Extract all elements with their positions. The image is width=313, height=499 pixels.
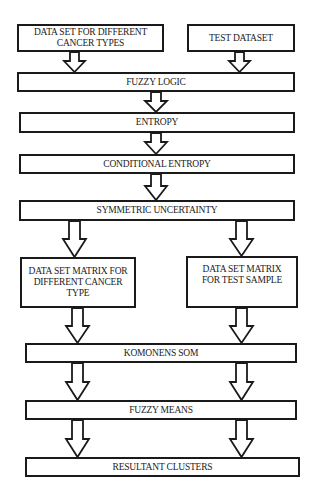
node-matrix-test-line-1: DATA SET MATRIX — [202, 264, 282, 275]
node-test-dataset-label: TEST DATASET — [209, 33, 273, 44]
node-cancer-dataset-line-2: CANCER TYPES — [34, 38, 147, 49]
arrow-test-to-fuzzy-logic — [229, 52, 250, 72]
node-resultant-clusters-label: RESULTANT CLUSTERS — [113, 462, 213, 473]
node-fuzzy-logic-label: FUZZY LOGIC — [126, 77, 185, 88]
arrow-fuzzy-means-to-resultant-right — [230, 420, 253, 457]
node-fuzzy-means: FUZZY MEANS — [25, 400, 297, 420]
arrow-matrix-cancer-to-som — [66, 308, 89, 343]
node-entropy: ENTROPY — [19, 112, 295, 133]
node-entropy-label: ENTROPY — [136, 117, 178, 128]
node-symmetric-uncertainty: SYMMETRIC UNCERTAINTY — [19, 200, 295, 221]
node-conditional-entropy: CONDITIONAL ENTROPY — [19, 154, 295, 174]
arrow-fuzzy-logic-to-entropy — [145, 92, 167, 112]
node-matrix-cancer: DATA SET MATRIX FOR DIFFERENT CANCER TYP… — [20, 257, 136, 308]
arrow-conditional-to-symmetric — [145, 174, 167, 200]
node-test-dataset: TEST DATASET — [187, 24, 295, 52]
node-matrix-cancer-line-3: TYPE — [29, 288, 128, 299]
arrow-som-to-fuzzy-means-left — [66, 363, 89, 400]
node-matrix-cancer-line-1: DATA SET MATRIX FOR — [29, 266, 128, 277]
node-cancer-dataset-line-1: DATA SET FOR DIFFERENT — [34, 27, 147, 38]
arrow-entropy-to-conditional-entropy — [145, 133, 167, 154]
node-fuzzy-logic: FUZZY LOGIC — [17, 72, 295, 92]
node-symmetric-uncertainty-label: SYMMETRIC UNCERTAINTY — [97, 205, 218, 216]
node-matrix-test: DATA SET MATRIX FOR TEST SAMPLE — [186, 256, 298, 308]
node-matrix-test-line-2: FOR TEST SAMPLE — [202, 275, 282, 286]
node-komonens-som-label: KOMONENS SOM — [124, 348, 198, 359]
arrow-symmetric-to-matrix-test — [230, 221, 253, 256]
node-cancer-dataset: DATA SET FOR DIFFERENT CANCER TYPES — [17, 24, 164, 52]
arrow-matrix-test-to-som — [230, 308, 253, 343]
node-komonens-som: KOMONENS SOM — [25, 343, 297, 363]
node-resultant-clusters: RESULTANT CLUSTERS — [25, 457, 300, 477]
arrow-fuzzy-means-to-resultant-left — [66, 420, 89, 457]
arrow-symmetric-to-matrix-cancer — [63, 221, 86, 257]
node-fuzzy-means-label: FUZZY MEANS — [129, 405, 193, 416]
arrow-cancer-to-fuzzy-logic — [64, 52, 85, 72]
node-matrix-cancer-line-2: DIFFERENT CANCER — [29, 277, 128, 288]
arrow-som-to-fuzzy-means-right — [230, 363, 253, 400]
node-conditional-entropy-label: CONDITIONAL ENTROPY — [103, 159, 210, 170]
